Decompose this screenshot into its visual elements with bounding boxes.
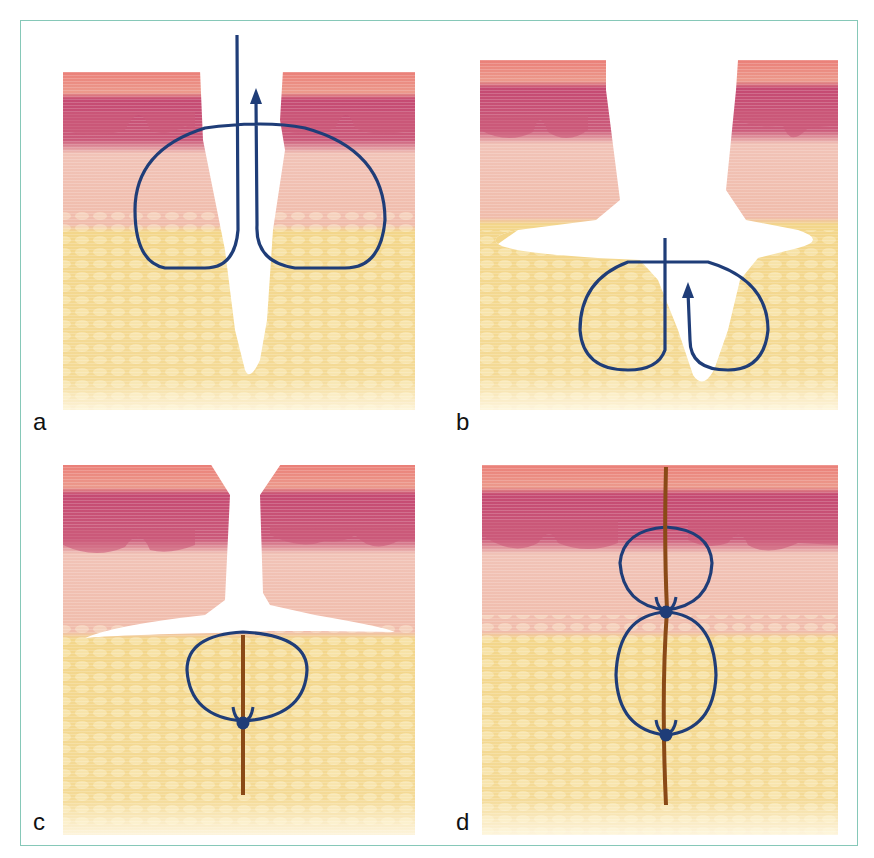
panel-label-b: b	[456, 410, 469, 434]
skin-cross-section-b	[478, 30, 838, 410]
panel-d: d	[478, 465, 838, 845]
skin-cross-section-c	[55, 455, 415, 835]
panel-a: a	[55, 30, 415, 410]
panel-label-c: c	[33, 810, 45, 834]
skin-cross-section-d	[478, 465, 838, 845]
panel-c: c	[55, 455, 415, 835]
panel-label-a: a	[33, 410, 46, 434]
skin-cross-section-a	[55, 30, 415, 410]
panel-b: b	[478, 30, 838, 410]
panel-label-d: d	[456, 810, 469, 834]
